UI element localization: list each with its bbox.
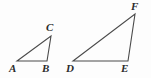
vertex-label-f: F: [131, 1, 138, 12]
vertex-label-d: D: [66, 63, 74, 74]
triangle-abc-outline: [17, 36, 51, 61]
vertex-label-b: B: [42, 63, 49, 74]
geometry-figure: A B C D E F: [0, 0, 151, 78]
vertex-label-c: C: [46, 22, 53, 33]
triangle-def-outline: [73, 14, 135, 61]
triangles-canvas: [0, 0, 151, 78]
vertex-label-e: E: [121, 63, 128, 74]
vertex-label-a: A: [9, 63, 16, 74]
